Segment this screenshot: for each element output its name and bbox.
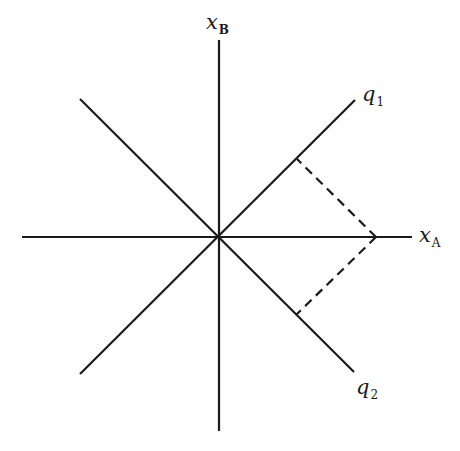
coordinate-diagram xyxy=(0,0,460,451)
projection-onto-q1 xyxy=(297,159,376,237)
x-a-label-main: x xyxy=(419,223,431,247)
x-a-label-sub: A xyxy=(432,236,441,250)
q2-label-main: q xyxy=(356,375,369,399)
q2-axis xyxy=(80,99,354,372)
x-b-label-sub: B xyxy=(219,23,229,37)
x-b-label: xB xyxy=(206,12,229,33)
q2-label: q2 xyxy=(356,377,378,398)
q1-label-main: q xyxy=(362,82,375,106)
q1-label-sub: 1 xyxy=(376,95,384,109)
q1-label: q1 xyxy=(362,84,384,105)
projection-onto-q2 xyxy=(296,237,376,315)
x-a-label: xA xyxy=(419,225,441,246)
q2-label-sub: 2 xyxy=(370,388,378,402)
x-b-label-main: x xyxy=(206,10,218,34)
